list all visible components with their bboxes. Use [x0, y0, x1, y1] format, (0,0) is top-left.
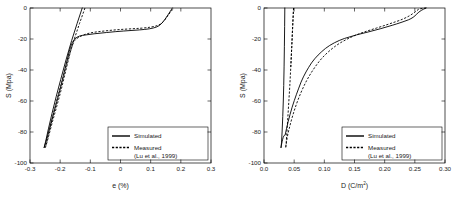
x-axis-title-left: e (%) — [112, 182, 129, 190]
y-axis-title-left: S (Mpa) — [5, 73, 13, 98]
legend-label-citation: (Lu et al., 1999) — [134, 152, 177, 159]
x-tick-label: 0.05 — [288, 165, 301, 172]
curve-right-simulated-loading — [281, 8, 285, 148]
curve-left-measured-unloading — [45, 8, 173, 148]
curve-left-measured-loading — [45, 8, 85, 148]
plot-frame-right — [264, 8, 445, 163]
x-ticks-right — [264, 8, 445, 163]
y-tick-label: -20 — [252, 35, 262, 42]
x-tick-label: -0.1 — [85, 165, 96, 172]
y-tick-label: -40 — [18, 66, 28, 73]
y-tick-label: -80 — [252, 128, 262, 135]
y-tick-label: -20 — [18, 35, 28, 42]
x-axis-title-base: D (C/m — [341, 182, 363, 190]
curve-right-measured-loading-2 — [286, 8, 294, 148]
legend-label-citation: (Lu et al., 1999) — [368, 152, 411, 159]
x-tick-label: 0.3 — [207, 165, 216, 172]
y-tick-labels-right: 0 -20 -40 -60 -80 -100 — [249, 4, 262, 166]
y-tick-label: -100 — [15, 159, 28, 166]
chart-panel-right: 0.0 0.05 0.10 0.15 0.20 0.25 0.30 0 -20 … — [232, 0, 464, 208]
curve-right-simulated-unloading — [281, 8, 426, 148]
y-ticks-right — [264, 8, 445, 163]
x-tick-label: 0.20 — [379, 165, 392, 172]
x-tick-labels-right: 0.0 0.05 0.10 0.15 0.20 0.25 0.30 — [260, 165, 452, 172]
x-tick-label: 0.2 — [177, 165, 186, 172]
y-tick-label: 0 — [24, 4, 28, 11]
y-tick-label: -60 — [252, 97, 262, 104]
y-tick-label: -80 — [18, 128, 28, 135]
legend-right: Simulated Measured (Lu et al., 1999) — [342, 127, 442, 160]
legend-label-simulated: Simulated — [368, 132, 396, 139]
x-tick-label: 0.0 — [260, 165, 269, 172]
legend-label-measured: Measured — [134, 144, 162, 151]
y-tick-label: -60 — [18, 97, 28, 104]
y-tick-labels-left: 0 -20 -40 -60 -80 -100 — [15, 4, 28, 166]
x-axis-title-right: D (C/m2) — [341, 181, 368, 190]
legend-label-measured: Measured — [368, 144, 396, 151]
x-tick-label: 0.25 — [409, 165, 422, 172]
y-axis-title-right: S (Mpa) — [239, 73, 247, 98]
x-tick-label: -0.2 — [55, 165, 66, 172]
x-tick-label: 0.30 — [439, 165, 452, 172]
x-tick-label: 0.10 — [318, 165, 331, 172]
x-tick-label: 0.1 — [146, 165, 155, 172]
figure-two-panel-hysteresis: -0.3 -0.2 -0.1 0 0.1 0.2 0.3 0 -20 -40 -… — [0, 0, 464, 208]
x-tick-labels-left: -0.3 -0.2 -0.1 0 0.1 0.2 0.3 — [25, 165, 216, 172]
x-axis-title-tail: ) — [366, 182, 368, 190]
x-tick-label: 0.15 — [348, 165, 361, 172]
x-tick-label: 0 — [119, 165, 123, 172]
y-tick-label: -40 — [252, 66, 262, 73]
curve-right-measured-unloading — [286, 8, 426, 148]
legend-left: Simulated Measured (Lu et al., 1999) — [108, 127, 208, 160]
y-tick-label: 0 — [258, 4, 262, 11]
y-tick-label: -100 — [249, 159, 262, 166]
chart-panel-left: -0.3 -0.2 -0.1 0 0.1 0.2 0.3 0 -20 -40 -… — [0, 0, 232, 208]
legend-label-simulated: Simulated — [134, 132, 162, 139]
